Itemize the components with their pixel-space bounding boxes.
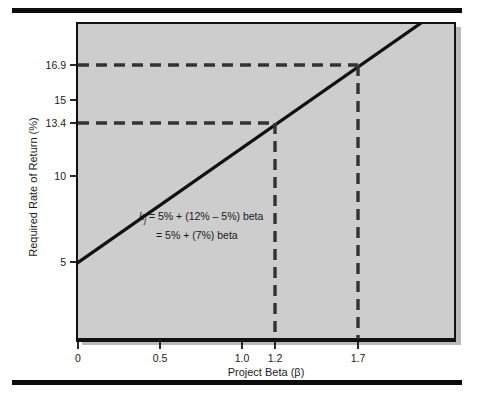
sml-equation-line-1: kj = 5% + (12% – 5%) beta [139, 209, 263, 228]
x-tick-label-1-0: 1.0 [235, 352, 250, 364]
x-tick-label-0-5: 0.5 [153, 352, 168, 364]
x-tick-label-1-2: 1.2 [268, 352, 283, 364]
sml-equation-annotation: kj = 5% + (12% – 5%) beta = 5% + (7%) be… [139, 209, 263, 243]
x-axis-ticks [78, 341, 358, 349]
y-axis-title: Required Rate of Return (%) [27, 92, 39, 282]
x-tick-label-1-7: 1.7 [351, 352, 366, 364]
y-tick-label-16-9: 16.9 [28, 59, 66, 71]
kj-symbol: kj [139, 210, 146, 222]
security-market-line [78, 0, 454, 263]
sml-equation-line-2: = 5% + (7%) beta [139, 228, 263, 243]
chart-svg [0, 0, 477, 396]
figure-container: 16.9 15 13.4 10 5 0 0.5 1.0 1.2 1.7 Requ… [0, 0, 477, 396]
sml-equation-line-1-text: = 5% + (12% – 5%) beta [146, 210, 263, 222]
x-axis-title: Project Beta (β) [76, 366, 456, 378]
x-tick-label-0: 0 [75, 352, 81, 364]
